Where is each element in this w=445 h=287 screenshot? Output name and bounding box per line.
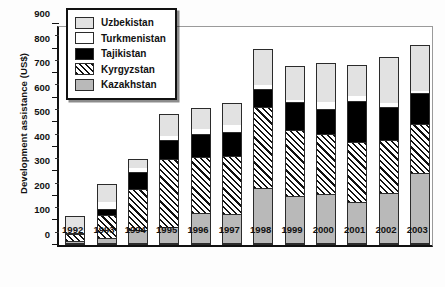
y-tick-major xyxy=(52,170,59,171)
bar-2000[interactable] xyxy=(316,63,336,245)
legend-item-label: Tajikistan xyxy=(101,48,146,59)
bar-segment-kazakhstan xyxy=(66,242,84,244)
y-tick-major xyxy=(52,146,59,147)
bar-segment-uzbekistan xyxy=(254,50,272,85)
bar-segment-tajikistan xyxy=(348,102,366,143)
bar-2002[interactable] xyxy=(379,57,399,245)
bar-1998[interactable] xyxy=(253,49,273,245)
bar-segment-kazakhstan xyxy=(317,195,335,244)
bar-segment-turkmenistan xyxy=(98,202,116,209)
y-tick-major xyxy=(52,244,59,245)
y-tick-label: 400 xyxy=(34,130,50,141)
bar-segment-tajikistan xyxy=(380,108,398,141)
y-axis-title: Development assistance (US$) xyxy=(18,9,29,239)
bar-segment-kyrgyzstan xyxy=(317,135,335,196)
y-tick-major xyxy=(52,72,59,73)
bar-segment-kazakhstan xyxy=(380,194,398,244)
bar-1993[interactable] xyxy=(97,184,117,245)
y-tick-label: 800 xyxy=(34,32,50,43)
bar-segment-uzbekistan xyxy=(98,185,116,203)
bar-segment-kazakhstan xyxy=(254,189,272,244)
bar-segment-kyrgyzstan xyxy=(286,131,304,197)
bar-segment-turkmenistan xyxy=(223,125,241,132)
y-tick-label: 700 xyxy=(34,57,50,68)
x-tick-label: 1992 xyxy=(56,224,90,235)
bar-1999[interactable] xyxy=(285,66,305,245)
bar-segment-tajikistan xyxy=(223,133,241,157)
legend-item-uzbekistan[interactable]: Uzbekistan xyxy=(75,15,166,31)
x-tick-label: 1995 xyxy=(150,224,184,235)
bar-segment-kazakhstan xyxy=(286,197,304,244)
bar-segment-tajikistan xyxy=(160,141,178,160)
legend-item-label: Uzbekistan xyxy=(101,17,154,28)
bar-segment-turkmenistan xyxy=(317,102,335,111)
legend-item-turkmenistan[interactable]: Turkmenistan xyxy=(75,31,166,47)
bar-segment-uzbekistan xyxy=(192,109,210,129)
x-tick-label: 1999 xyxy=(275,224,309,235)
bar-2001[interactable] xyxy=(347,65,367,245)
legend-item-kyrgyzstan[interactable]: Kyrgyzstan xyxy=(75,62,166,78)
y-tick-label: 0 xyxy=(45,229,50,240)
x-tick-label: 1994 xyxy=(118,224,152,235)
bar-segment-tajikistan xyxy=(286,103,304,131)
bar-segment-kyrgyzstan xyxy=(254,108,272,189)
legend-item-kazakhstan[interactable]: Kazakhstan xyxy=(75,77,166,93)
legend-swatch-icon xyxy=(75,79,94,91)
legend-item-label: Kazakhstan xyxy=(101,79,157,90)
bar-segment-uzbekistan xyxy=(411,46,429,91)
x-tick-label: 1996 xyxy=(181,224,215,235)
legend: UzbekistanTurkmenistanTajikistanKyrgyzst… xyxy=(66,8,177,100)
bar-segment-kyrgyzstan xyxy=(160,160,178,228)
legend-swatch-icon xyxy=(75,48,94,60)
bar-segment-kyrgyzstan xyxy=(380,141,398,194)
stacked-bar-chart: Development assistance (US$) 01002003004… xyxy=(0,0,445,287)
x-tick-label: 1998 xyxy=(244,224,278,235)
y-tick-major xyxy=(52,219,59,220)
y-tick-label: 200 xyxy=(34,179,50,190)
bar-segment-tajikistan xyxy=(411,94,429,124)
x-tick-label: 2001 xyxy=(338,224,372,235)
x-tick-label: 1993 xyxy=(87,224,121,235)
bar-segment-kyrgyzstan xyxy=(66,235,84,242)
legend-swatch-icon xyxy=(75,63,94,75)
bar-segment-kyrgyzstan xyxy=(348,143,366,203)
x-tick-label: 2003 xyxy=(400,224,434,235)
y-tick-label: 100 xyxy=(34,204,50,215)
legend-swatch-icon xyxy=(75,17,94,29)
y-tick-major xyxy=(52,97,59,98)
bar-segment-kazakhstan xyxy=(98,239,116,244)
legend-item-tajikistan[interactable]: Tajikistan xyxy=(75,46,166,62)
y-tick-major xyxy=(52,121,59,122)
bar-segment-uzbekistan xyxy=(223,104,241,126)
x-tick-label: 2002 xyxy=(369,224,403,235)
bar-segment-tajikistan xyxy=(317,110,335,134)
x-tick-label: 1997 xyxy=(212,224,246,235)
bar-segment-kyrgyzstan xyxy=(411,125,429,174)
bar-segment-uzbekistan xyxy=(317,64,335,102)
y-tick-label: 500 xyxy=(34,106,50,117)
bar-segment-uzbekistan xyxy=(160,115,178,136)
legend-item-label: Kyrgyzstan xyxy=(101,64,155,75)
legend-item-label: Turkmenistan xyxy=(101,33,166,44)
y-tick-label: 900 xyxy=(34,8,50,19)
bar-segment-uzbekistan xyxy=(286,67,304,100)
y-tick-label: 300 xyxy=(34,155,50,166)
bar-segment-kyrgyzstan xyxy=(192,158,210,214)
bar-segment-tajikistan xyxy=(192,135,210,158)
bar-segment-uzbekistan xyxy=(129,160,147,168)
x-tick-label: 2000 xyxy=(306,224,340,235)
y-tick-label: 600 xyxy=(34,81,50,92)
y-tick-major xyxy=(52,48,59,49)
bar-segment-uzbekistan xyxy=(380,58,398,103)
bar-2003[interactable] xyxy=(410,45,430,245)
bar-segment-uzbekistan xyxy=(348,66,366,96)
y-tick-major xyxy=(52,23,59,24)
bar-segment-tajikistan xyxy=(254,90,272,108)
bar-segment-kyrgyzstan xyxy=(223,157,241,215)
bar-segment-tajikistan xyxy=(129,173,147,190)
y-tick-major xyxy=(52,195,59,196)
legend-swatch-icon xyxy=(75,32,94,44)
